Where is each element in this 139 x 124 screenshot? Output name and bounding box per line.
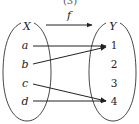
- arrow-b-to-1: [33, 47, 106, 64]
- mapping-diagram: (3) f X Y a b c d 1 2 3 4: [0, 0, 139, 124]
- codomain-name: Y: [109, 20, 118, 33]
- figure-label: (3): [63, 0, 77, 6]
- domain-element-b: b: [21, 58, 28, 71]
- codomain-element-4: 4: [111, 95, 118, 107]
- function-label: f: [66, 9, 73, 22]
- domain-element-d: d: [21, 95, 28, 108]
- codomain-element-3: 3: [111, 77, 118, 89]
- domain-element-c: c: [22, 77, 28, 90]
- domain-element-a: a: [22, 39, 29, 52]
- codomain-element-2: 2: [111, 58, 118, 70]
- domain-name: X: [22, 20, 32, 33]
- arrow-c-to-4: [33, 84, 106, 101]
- codomain-element-1: 1: [111, 39, 118, 51]
